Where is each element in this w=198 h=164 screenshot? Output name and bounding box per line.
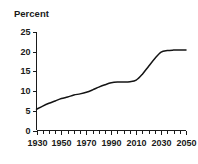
x-axis-major-ticks <box>38 131 187 136</box>
x-tick-label: 1930 <box>27 138 47 148</box>
x-tick-label: 2050 <box>176 138 196 148</box>
x-tick-label: 2010 <box>126 138 146 148</box>
y-tick-label: 10 <box>20 86 30 96</box>
x-axis-tick-labels: 1930195019701990201020302050 <box>27 138 196 148</box>
chart-title: Percent <box>14 8 50 19</box>
x-tick-label: 1970 <box>76 138 96 148</box>
y-axis-tick-labels: 0510152025 <box>20 27 30 136</box>
data-series-line <box>37 50 187 109</box>
x-tick-label: 2030 <box>151 138 171 148</box>
x-tick-label: 1950 <box>51 138 71 148</box>
chart-canvas: Percent 0510152025 193019501970199020102… <box>0 0 198 164</box>
y-tick-label: 0 <box>25 126 30 136</box>
y-tick-label: 15 <box>20 66 30 76</box>
y-tick-label: 25 <box>20 27 30 37</box>
percent-line-chart: Percent 0510152025 193019501970199020102… <box>0 0 198 164</box>
y-tick-label: 5 <box>25 106 30 116</box>
y-tick-label: 20 <box>20 47 30 57</box>
x-tick-label: 1990 <box>101 138 121 148</box>
